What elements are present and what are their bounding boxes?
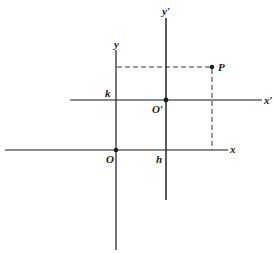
x-prime-axis-label: x′ xyxy=(263,94,273,106)
point-p xyxy=(210,65,214,69)
translation-of-axes-diagram: y x y′ x′ O O′ P h k xyxy=(0,0,274,254)
h-label: h xyxy=(156,153,162,165)
k-label: k xyxy=(105,87,111,99)
point-p-label: P xyxy=(218,61,225,73)
new-origin-label: O′ xyxy=(152,103,163,115)
new-origin-point xyxy=(164,98,169,103)
origin-label: O xyxy=(106,153,114,165)
y-axis-label: y xyxy=(112,38,119,50)
x-axis-label: x xyxy=(229,143,236,155)
y-prime-axis-label: y′ xyxy=(160,5,170,17)
origin-point xyxy=(114,148,118,152)
